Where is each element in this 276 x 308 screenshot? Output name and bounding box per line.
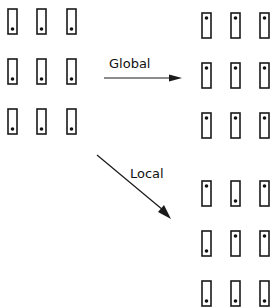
grid-cell bbox=[37, 9, 46, 34]
grid-cell bbox=[8, 59, 17, 84]
grid-cell bbox=[231, 281, 240, 306]
grid-cell bbox=[67, 9, 76, 34]
dot-bottom bbox=[234, 199, 238, 203]
grid-cell bbox=[231, 113, 240, 138]
dot-bottom bbox=[40, 27, 44, 31]
local-arrow: Local bbox=[97, 155, 171, 219]
grid-cell bbox=[231, 231, 240, 256]
dot-top bbox=[234, 66, 238, 70]
grid-cell bbox=[231, 13, 240, 38]
dot-bottom bbox=[205, 249, 209, 253]
global-arrow-label: Global bbox=[109, 56, 150, 71]
global-vs-local-diagram: Global Local bbox=[0, 0, 276, 308]
local-result-grid bbox=[202, 181, 269, 306]
grid-cell bbox=[260, 181, 269, 206]
grid-cell bbox=[260, 281, 269, 306]
grid-cell bbox=[37, 109, 46, 134]
grid-cell bbox=[67, 59, 76, 84]
dot-bottom bbox=[40, 77, 44, 81]
grid-cell bbox=[67, 109, 76, 134]
dot-bottom bbox=[11, 127, 15, 131]
dot-top bbox=[263, 66, 267, 70]
dot-bottom bbox=[11, 77, 15, 81]
dot-bottom bbox=[234, 299, 238, 303]
grid-cell bbox=[231, 181, 240, 206]
source-grid bbox=[8, 9, 76, 134]
dot-bottom bbox=[70, 127, 74, 131]
grid-cell bbox=[260, 113, 269, 138]
local-arrow-label: Local bbox=[130, 166, 164, 181]
dot-bottom bbox=[205, 299, 209, 303]
grid-cell bbox=[260, 13, 269, 38]
grid-cell bbox=[202, 113, 211, 138]
dot-top bbox=[263, 116, 267, 120]
dot-top bbox=[234, 116, 238, 120]
global-result-grid bbox=[202, 13, 269, 138]
local-arrow-shaft bbox=[97, 155, 163, 210]
dot-bottom bbox=[70, 77, 74, 81]
grid-cell bbox=[260, 231, 269, 256]
dot-bottom bbox=[11, 27, 15, 31]
dot-bottom bbox=[263, 299, 267, 303]
grid-cell bbox=[8, 9, 17, 34]
dot-bottom bbox=[70, 27, 74, 31]
grid-cell bbox=[260, 63, 269, 88]
dot-top bbox=[205, 66, 209, 70]
dot-bottom bbox=[40, 127, 44, 131]
grid-cell bbox=[202, 181, 211, 206]
dot-top bbox=[263, 16, 267, 20]
grid-cell bbox=[202, 281, 211, 306]
grid-cell bbox=[231, 63, 240, 88]
global-arrow: Global bbox=[104, 56, 182, 82]
dot-top bbox=[205, 184, 209, 188]
dot-top bbox=[205, 16, 209, 20]
global-arrow-head bbox=[169, 75, 182, 82]
grid-cell bbox=[8, 109, 17, 134]
dot-top bbox=[234, 16, 238, 20]
grid-cell bbox=[202, 13, 211, 38]
dot-top bbox=[234, 234, 238, 238]
dot-top bbox=[263, 184, 267, 188]
dot-top bbox=[263, 234, 267, 238]
dot-top bbox=[205, 116, 209, 120]
grid-cell bbox=[37, 59, 46, 84]
grid-cell bbox=[202, 63, 211, 88]
grid-cell bbox=[202, 231, 211, 256]
